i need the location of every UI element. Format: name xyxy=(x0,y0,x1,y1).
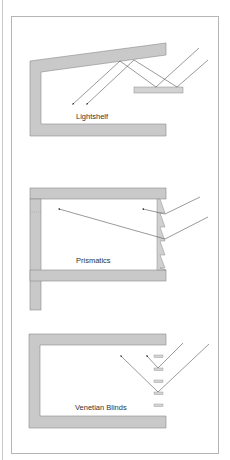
prismatics-ceiling xyxy=(30,188,166,199)
panel-label-lightshelf: Lightshelf xyxy=(76,112,109,121)
light-ray xyxy=(147,343,183,368)
panel-prismatics: Prismatics xyxy=(30,188,208,310)
panel-lightshelf: Lightshelf xyxy=(30,43,208,136)
light-ray xyxy=(143,197,200,214)
blind-slat xyxy=(154,355,163,358)
venetian-building-section xyxy=(29,334,166,428)
light-ray xyxy=(87,60,208,104)
lightshelf-shelf xyxy=(134,87,183,93)
panel-venetian-blinds: Venetian Blinds xyxy=(29,334,209,428)
light-ray xyxy=(59,209,208,239)
figure-frame xyxy=(12,17,219,454)
light-ray xyxy=(121,344,209,392)
panel-label-venetian-blinds: Venetian Blinds xyxy=(75,403,127,412)
panel-label-prismatics: Prismatics xyxy=(76,256,111,265)
daylighting-strategies-diagram: Lightshelf Prismatics Venetian Blinds xyxy=(0,0,230,460)
blind-slat xyxy=(154,380,163,383)
prismatics-left-wall xyxy=(30,199,41,310)
blind-slat xyxy=(154,392,163,395)
prismatics-floor xyxy=(30,270,166,281)
blind-slat xyxy=(154,404,163,407)
blind-slat xyxy=(154,368,163,371)
prismatic-panel xyxy=(157,199,166,270)
